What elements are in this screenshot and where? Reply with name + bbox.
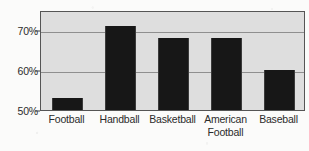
x-axis-tick-label: Basketball bbox=[149, 113, 195, 126]
x-axis-tick-label: Baseball bbox=[259, 113, 298, 126]
bars-group bbox=[41, 12, 304, 110]
y-axis-tick-label: 60% bbox=[4, 65, 38, 77]
bar bbox=[105, 26, 136, 110]
x-axis: FootballHandballBasketballAmerican Footb… bbox=[40, 113, 305, 151]
y-axis: 50%60%70% bbox=[0, 0, 38, 151]
bar bbox=[52, 98, 83, 110]
x-axis-tick-label: American Football bbox=[204, 113, 247, 138]
bar bbox=[211, 38, 242, 110]
y-axis-tick-label: 70% bbox=[4, 25, 38, 37]
bar bbox=[264, 70, 295, 110]
x-axis-tick-label: Football bbox=[49, 113, 85, 126]
bar-chart-figure: 50%60%70% FootballHandballBasketballAmer… bbox=[0, 0, 309, 151]
bar bbox=[158, 38, 189, 110]
y-axis-tick-label: 50% bbox=[4, 105, 38, 117]
x-axis-tick-label: Handball bbox=[100, 113, 140, 126]
plot-area bbox=[40, 11, 305, 111]
